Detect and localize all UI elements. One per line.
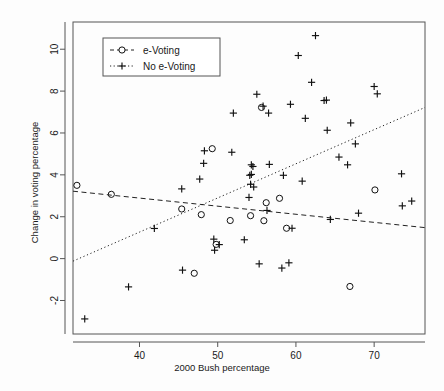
point-no-e-voting — [295, 52, 302, 59]
point-no-e-voting — [308, 79, 315, 86]
point-no-e-voting — [344, 161, 351, 168]
point-no-e-voting — [371, 83, 378, 90]
y-tick-label: 2 — [50, 214, 61, 220]
point-e-voting — [74, 182, 80, 188]
point-no-e-voting — [81, 315, 88, 322]
point-no-e-voting — [245, 194, 252, 201]
y-tick-label: 8 — [50, 88, 61, 94]
point-no-e-voting — [280, 172, 287, 179]
point-e-voting — [191, 270, 197, 276]
point-no-e-voting — [200, 160, 207, 167]
point-no-e-voting — [355, 210, 362, 217]
point-no-e-voting — [151, 225, 158, 232]
point-no-e-voting — [248, 171, 255, 178]
x-axis-label: 2000 Bush percentage — [0, 362, 444, 373]
point-e-voting — [198, 212, 204, 218]
point-no-e-voting — [230, 109, 237, 116]
point-e-voting — [247, 213, 253, 219]
scatter-plot-figure: 40506070-20246810e-VotingNo e-Voting 200… — [0, 0, 444, 391]
y-tick-label: 10 — [50, 43, 61, 55]
x-tick-label: 60 — [290, 350, 302, 361]
point-no-e-voting — [324, 127, 331, 134]
point-no-e-voting — [249, 163, 256, 170]
point-no-e-voting — [347, 119, 354, 126]
point-no-e-voting — [228, 149, 235, 156]
point-no-e-voting — [265, 109, 272, 116]
point-no-e-voting — [263, 207, 270, 214]
point-no-e-voting — [302, 115, 309, 122]
point-no-e-voting — [259, 103, 266, 110]
point-no-e-voting — [256, 260, 263, 267]
point-e-voting — [108, 191, 114, 197]
legend-label-0: e-Voting — [143, 45, 180, 56]
y-tick-label: 4 — [50, 172, 61, 178]
point-no-e-voting — [266, 161, 273, 168]
point-no-e-voting — [196, 175, 203, 182]
point-e-voting — [347, 283, 353, 289]
point-no-e-voting — [374, 90, 381, 97]
y-tick-label: -2 — [50, 296, 61, 305]
point-e-voting — [179, 206, 185, 212]
y-axis-label: Change in voting percentage — [29, 63, 40, 303]
point-no-e-voting — [335, 153, 342, 160]
point-no-e-voting — [246, 172, 253, 179]
point-no-e-voting — [201, 147, 208, 154]
point-no-e-voting — [327, 216, 334, 223]
point-e-voting — [209, 146, 215, 152]
legend-label-1: No e-Voting — [143, 61, 195, 72]
x-tick-label: 50 — [212, 350, 224, 361]
point-e-voting — [227, 217, 233, 223]
legend-marker-circle — [119, 47, 125, 53]
point-e-voting — [261, 218, 267, 224]
point-no-e-voting — [253, 91, 260, 98]
point-no-e-voting — [287, 101, 294, 108]
point-e-voting — [276, 195, 282, 201]
point-e-voting — [263, 200, 269, 206]
point-no-e-voting — [398, 170, 405, 177]
point-no-e-voting — [248, 161, 255, 168]
y-tick-label: 6 — [50, 130, 61, 136]
point-no-e-voting — [241, 236, 248, 243]
point-no-e-voting — [278, 264, 285, 271]
point-no-e-voting — [352, 140, 359, 147]
point-no-e-voting — [299, 178, 306, 185]
point-no-e-voting — [125, 283, 132, 290]
x-tick-label: 40 — [134, 350, 146, 361]
point-e-voting — [372, 187, 378, 193]
plot-canvas: 40506070-20246810e-VotingNo e-Voting — [0, 0, 444, 391]
x-tick-label: 70 — [369, 350, 381, 361]
point-no-e-voting — [399, 202, 406, 209]
point-e-voting — [258, 104, 264, 110]
y-tick-label: 0 — [50, 255, 61, 261]
point-no-e-voting — [312, 32, 319, 39]
point-no-e-voting — [285, 259, 292, 266]
point-no-e-voting — [408, 197, 415, 204]
point-no-e-voting — [288, 225, 295, 232]
point-no-e-voting — [178, 185, 185, 192]
point-no-e-voting — [179, 267, 186, 274]
